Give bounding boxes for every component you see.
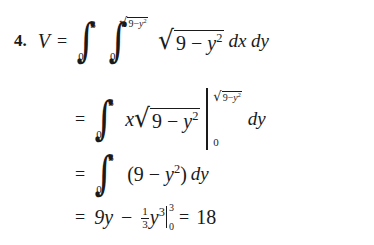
final-result: 18: [196, 206, 216, 229]
integrand-3: (9−y2): [127, 162, 187, 186]
differential-3: dy: [191, 163, 209, 185]
radicand-var: y: [183, 110, 192, 132]
integrand-minus: −: [149, 163, 160, 185]
power-term: y3: [150, 205, 165, 229]
evaluation-bar-line: [206, 88, 207, 150]
solution-line-2: = ∫ 3 0 x √ 9−y2 √ 9−y2 0 dy: [68, 88, 266, 150]
outer-integral-upper-limit: 3: [108, 151, 114, 163]
outer-integral-3: ∫ 3 0: [92, 155, 116, 193]
radicand-var: y: [207, 32, 216, 54]
right-paren: ): [180, 163, 187, 185]
antiderivative-radical: √ 9−y2: [134, 106, 200, 132]
radicand-const: 9: [152, 110, 162, 132]
math-solution-block: 4. V = ∫ 3 0 ∫ √ 9−y2 0 √ 9−y2 dx dy: [0, 0, 374, 245]
inner-integral-upper-limit: √ 9−y2: [119, 16, 147, 29]
equals-sign-5: =: [179, 207, 189, 228]
radicand-minus: −: [191, 32, 202, 54]
limit-radicand: 9−y2: [127, 17, 147, 29]
equals-sign-1: =: [57, 31, 67, 52]
radicand-exp: 2: [192, 109, 198, 123]
evaluation-bar-4: 3 0: [166, 206, 167, 228]
lhs-variable: V: [38, 30, 50, 53]
limit-radicand: 9−y2: [222, 91, 242, 103]
limit-radical: √ 9−y2: [119, 16, 147, 29]
integrand-constant: 9: [134, 163, 144, 185]
outer-integral-upper-limit: 3: [90, 18, 96, 30]
radicand-const: 9: [176, 32, 186, 54]
evaluation-upper-limit: √ 9−y2: [213, 90, 241, 103]
radicand-minus: −: [167, 110, 178, 132]
integrand-radical-1: √ 9−y2: [158, 28, 224, 54]
evaluation-bar-2: √ 9−y2 0: [206, 88, 207, 150]
solution-line-3: = ∫ 3 0 (9−y2) dy: [68, 155, 209, 193]
outer-integral-2: ∫ 3 0: [92, 100, 116, 138]
left-paren: (: [127, 163, 134, 185]
radicand-exp: 2: [143, 17, 146, 24]
equals-sign-4: =: [75, 207, 85, 228]
inner-integral-lower-limit: 0: [110, 50, 116, 62]
solution-line-1: 4. V = ∫ 3 0 ∫ √ 9−y2 0 √ 9−y2 dx dy: [14, 22, 269, 60]
integrand-radicand: 9−y2: [174, 30, 224, 54]
equals-sign-2: =: [75, 109, 85, 130]
power-exponent: 3: [159, 205, 165, 219]
power-variable: y: [150, 206, 159, 228]
evaluation-lower-limit: 0: [169, 221, 174, 232]
outer-integral-1: ∫ 3 0: [74, 22, 98, 60]
radicand-exp: 2: [238, 91, 241, 98]
inner-integral-1: ∫ √ 9−y2 0: [106, 22, 130, 60]
problem-number: 4.: [14, 31, 27, 51]
evaluation-upper-limit: 3: [169, 202, 174, 213]
radical-glyph: √: [158, 27, 174, 54]
equals-sign-3: =: [75, 164, 85, 185]
integrand-variable: y: [165, 163, 174, 185]
limit-radical: √ 9−y2: [213, 90, 241, 103]
one-third-fraction: 1 3: [141, 206, 149, 230]
outer-integral-lower-limit: 0: [96, 183, 102, 195]
radical-glyph: √: [134, 105, 150, 132]
antiderivative-radicand: 9−y2: [150, 108, 200, 132]
evaluation-bar-line: [166, 206, 167, 228]
fraction-denominator: 3: [141, 218, 149, 231]
first-term: 9y: [94, 206, 113, 229]
radicand-exp: 2: [216, 31, 222, 45]
outer-integral-upper-limit: 3: [108, 96, 114, 108]
evaluation-lower-limit: 0: [213, 136, 219, 148]
subtraction-sign: −: [121, 206, 132, 229]
radical-glyph: √: [119, 16, 127, 30]
differentials-1: dx dy: [228, 30, 269, 52]
outer-integral-lower-limit: 0: [96, 128, 102, 140]
outer-integral-lower-limit: 0: [78, 50, 84, 62]
solution-line-4: = 9y − 1 3 y3 3 0 = 18: [68, 205, 216, 229]
fraction-numerator: 1: [141, 206, 149, 218]
radical-glyph: √: [213, 90, 221, 104]
differential-2: dy: [248, 108, 266, 130]
antiderivative-coefficient: x: [125, 108, 134, 131]
